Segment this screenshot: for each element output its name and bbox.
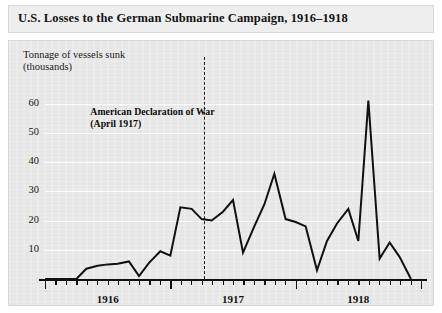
page-title: U.S. Losses to the German Submarine Camp…	[18, 11, 348, 26]
series-line-tonnage	[9, 41, 434, 306]
chart-figure: U.S. Losses to the German Submarine Camp…	[0, 0, 442, 313]
plot-panel: Tonnage of vessels sunk (thousands) 1020…	[8, 40, 434, 306]
title-band: U.S. Losses to the German Submarine Camp…	[8, 5, 434, 33]
series-polyline	[45, 101, 411, 279]
